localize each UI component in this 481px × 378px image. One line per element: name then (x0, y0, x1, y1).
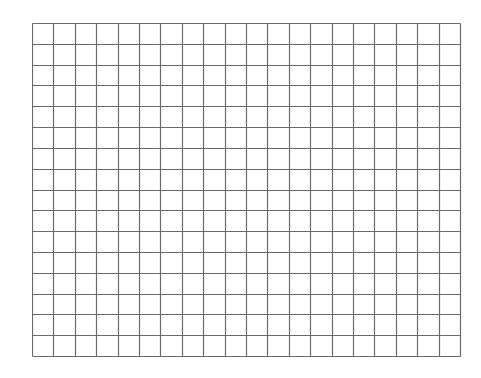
blank-grid (32, 23, 462, 358)
grid-lines (32, 23, 462, 358)
